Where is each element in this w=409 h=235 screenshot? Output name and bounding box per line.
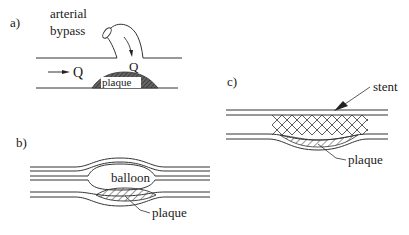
panel-b-label: b) [16, 135, 27, 150]
plaque-b [96, 188, 156, 201]
panel-c-stent: c) plaque stent [226, 74, 398, 167]
bypass-title-line1: arterial [50, 6, 87, 21]
panel-b-balloon-angioplasty: b) balloon plaque [16, 135, 210, 220]
bypass-graft-opening [101, 26, 113, 39]
plaque-c-label: plaque [348, 152, 383, 167]
bypass-flow-label: Q [129, 59, 139, 74]
panel-c-label: c) [227, 74, 237, 89]
panel-a-arterial-bypass: a) arterial bypass Q Q plaque [10, 6, 182, 88]
stent-mesh [272, 115, 368, 135]
angioplasty-diagram: a) arterial bypass Q Q plaque b) bal [0, 0, 409, 235]
plaque-a-label: plaque [102, 76, 131, 88]
stent-label: stent [373, 79, 398, 94]
main-flow-label: Q [73, 65, 83, 80]
main-flow-arrowhead [62, 70, 70, 74]
panel-a-label: a) [10, 15, 20, 30]
bypass-flow-arrow [124, 37, 131, 52]
stent-leader [345, 87, 370, 104]
plaque-b-label: plaque [152, 205, 187, 220]
bypass-title-line2: bypass [50, 23, 85, 38]
balloon-label: balloon [111, 170, 150, 185]
bypass-flow-arrowhead [129, 50, 133, 57]
